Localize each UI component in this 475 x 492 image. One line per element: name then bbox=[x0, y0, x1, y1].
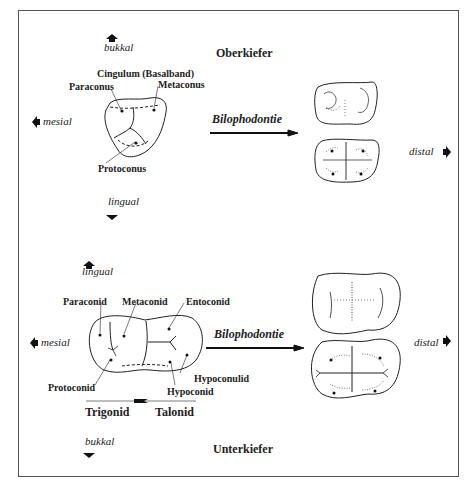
direction-distal-lower: distal bbox=[414, 337, 438, 348]
label-metaconus: Metaconus bbox=[158, 80, 205, 90]
arrow-right-icon bbox=[443, 146, 451, 158]
label-hypoconulid: Hypoconulid bbox=[194, 374, 249, 384]
title-oberkiefer: Oberkiefer bbox=[216, 47, 273, 59]
upper-bilophodont-stippled bbox=[315, 82, 378, 124]
lower-bilophodont-stippled bbox=[312, 273, 400, 334]
arrow-down-icon bbox=[83, 453, 95, 458]
direction-distal-upper: distal bbox=[409, 146, 433, 157]
upper-molar-outline bbox=[105, 98, 166, 157]
direction-mesial-upper: mesial bbox=[43, 116, 72, 127]
label-entoconid: Entoconid bbox=[186, 297, 230, 307]
direction-bukkal-upper: bukkal bbox=[104, 42, 133, 53]
label-paraconid: Paraconid bbox=[63, 297, 107, 307]
label-protoconid: Protoconid bbox=[48, 383, 95, 393]
arrow-left-icon bbox=[30, 337, 38, 349]
upper-bilophodont-schematic bbox=[315, 139, 379, 182]
diagram-graphics bbox=[0, 0, 475, 492]
label-protoconus: Protoconus bbox=[98, 164, 146, 174]
arrow-left-icon bbox=[32, 116, 40, 128]
process-bilophodontie-lower: Bilophodontie bbox=[214, 328, 284, 340]
label-trigonid: Trigonid bbox=[85, 406, 129, 418]
lower-molar-outline bbox=[89, 315, 202, 372]
label-cingulum: Cingulum (Basalband) bbox=[97, 69, 194, 79]
lower-bilophodont-schematic bbox=[311, 339, 400, 398]
label-metaconid: Metaconid bbox=[122, 297, 168, 307]
label-hypoconid: Hypoconid bbox=[167, 387, 214, 397]
direction-lingual-lower: lingual bbox=[82, 266, 113, 277]
label-talonid: Talonid bbox=[155, 406, 194, 418]
title-unterkiefer: Unterkiefer bbox=[213, 443, 273, 455]
process-bilophodontie-upper: Bilophodontie bbox=[212, 113, 282, 125]
label-paraconus: Paraconus bbox=[69, 82, 114, 92]
direction-bukkal-lower: bukkal bbox=[85, 436, 114, 447]
direction-lingual-upper: lingual bbox=[108, 196, 139, 207]
arrow-down-icon bbox=[106, 215, 118, 220]
direction-mesial-lower: mesial bbox=[41, 337, 70, 348]
arrow-right-icon bbox=[443, 335, 451, 347]
